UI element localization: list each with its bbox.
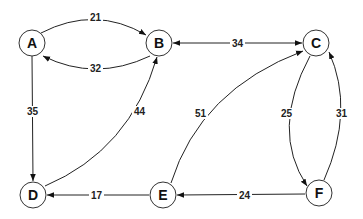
node-a: A <box>19 30 45 56</box>
svg-text:17: 17 <box>91 190 103 201</box>
weight-label-d-b: 44 <box>132 106 147 117</box>
edge-c-f <box>289 56 310 186</box>
weight-label-b-c: 34 <box>230 38 245 49</box>
node-f: F <box>306 180 332 206</box>
svg-text:34: 34 <box>232 38 244 49</box>
svg-text:D: D <box>28 187 38 203</box>
weight-label-e-c: 51 <box>193 108 208 119</box>
edge-d-b <box>45 57 157 186</box>
node-b: B <box>146 30 172 56</box>
node-e: E <box>150 182 176 208</box>
graph-diagram: 21 32 34 35 44 51 25 31 17 24 A B C D E … <box>0 0 363 219</box>
weight-label-c-f: 25 <box>279 108 294 119</box>
svg-text:35: 35 <box>27 106 39 117</box>
svg-text:E: E <box>158 187 167 203</box>
svg-text:A: A <box>27 35 37 51</box>
svg-text:C: C <box>311 35 321 51</box>
weight-label-b-a: 32 <box>88 63 103 74</box>
svg-text:25: 25 <box>281 108 293 119</box>
node-c: C <box>303 30 329 56</box>
svg-text:31: 31 <box>336 108 348 119</box>
svg-text:F: F <box>315 185 324 201</box>
svg-text:44: 44 <box>134 106 146 117</box>
weight-label-a-d: 35 <box>25 106 40 117</box>
weight-label-f-c: 31 <box>334 108 349 119</box>
svg-text:51: 51 <box>195 108 207 119</box>
weight-label-f-e: 24 <box>237 190 252 201</box>
svg-text:B: B <box>154 35 164 51</box>
svg-text:21: 21 <box>90 12 102 23</box>
edge-a-d <box>32 56 33 181</box>
weight-label-e-d: 17 <box>89 190 104 201</box>
weight-label-a-b: 21 <box>88 12 103 23</box>
svg-text:24: 24 <box>239 190 251 201</box>
svg-text:32: 32 <box>90 63 102 74</box>
node-d: D <box>20 182 46 208</box>
